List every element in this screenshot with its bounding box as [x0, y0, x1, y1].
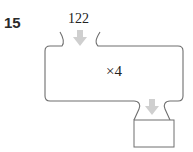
input-arrow-icon	[73, 30, 87, 46]
operation-label: ×4	[106, 63, 122, 80]
output-arrow-icon	[145, 99, 159, 115]
function-machine-diagram	[0, 0, 193, 152]
output-answer-box[interactable]	[134, 120, 174, 147]
